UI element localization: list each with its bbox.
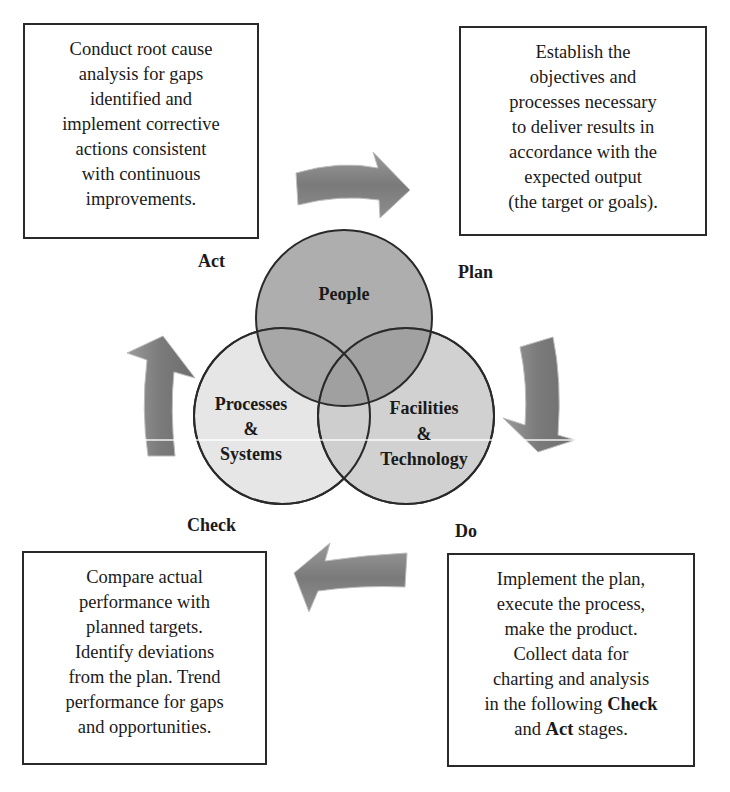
arrow-left-icon [294,543,407,612]
people-label: People [319,284,370,304]
arrow-down-icon [503,337,575,452]
facilities-label: Facilities [390,398,459,418]
pdca-venn-diagram: People Processes & Systems Facilities & … [0,0,730,792]
facilities-ampersand: & [417,424,432,444]
systems-label: Systems [220,444,282,464]
processes-label: Processes [215,394,288,414]
arrow-right-icon [296,152,410,218]
technology-label: Technology [380,449,467,469]
people-circle [256,230,432,406]
processes-ampersand: & [244,419,259,439]
arrow-up-icon [127,336,195,456]
